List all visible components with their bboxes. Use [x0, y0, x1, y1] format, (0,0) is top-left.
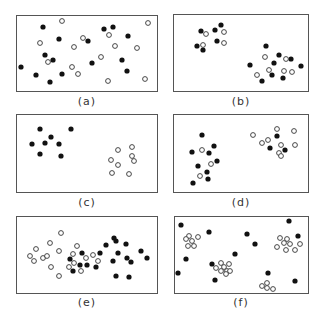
filled-point: [247, 62, 252, 67]
filled-point: [18, 64, 23, 69]
open-point: [45, 254, 50, 259]
filled-point: [205, 176, 210, 181]
open-point: [99, 55, 104, 60]
filled-point: [292, 278, 297, 283]
filled-point: [42, 140, 47, 145]
filled-point: [211, 143, 216, 148]
open-point: [84, 256, 89, 261]
panel-e-points: [28, 231, 150, 280]
open-point: [46, 60, 51, 65]
open-point: [91, 253, 96, 258]
filled-point: [56, 36, 61, 41]
filled-point: [183, 256, 188, 261]
filled-point: [189, 149, 194, 154]
open-point: [130, 145, 135, 150]
filled-point: [67, 256, 72, 261]
filled-point: [89, 60, 94, 65]
open-point: [267, 68, 272, 73]
open-point: [278, 236, 283, 241]
filled-point: [280, 75, 285, 80]
open-point: [57, 274, 62, 279]
open-point: [200, 148, 205, 153]
open-point: [275, 127, 280, 132]
filled-point: [212, 27, 217, 32]
filled-point: [178, 222, 183, 227]
open-point: [284, 248, 289, 253]
open-point: [288, 242, 293, 247]
filled-point: [267, 145, 272, 150]
filled-point: [138, 248, 143, 253]
filled-point: [259, 78, 264, 83]
filled-point: [113, 238, 118, 243]
open-point: [282, 241, 287, 246]
filled-point: [110, 258, 115, 263]
filled-point: [115, 250, 120, 255]
open-point: [75, 244, 80, 249]
open-point: [271, 287, 276, 292]
open-point: [266, 138, 271, 143]
filled-point: [59, 71, 64, 76]
filled-point: [56, 141, 61, 146]
open-point: [293, 248, 298, 253]
open-point: [48, 241, 53, 246]
open-point: [81, 36, 86, 41]
filled-point: [37, 126, 42, 131]
open-point: [196, 235, 201, 240]
open-point: [72, 261, 77, 266]
panel-f-points: [175, 218, 302, 291]
open-point: [32, 259, 37, 264]
filled-point: [212, 277, 217, 282]
filled-point: [286, 218, 291, 223]
filled-point: [58, 153, 63, 158]
open-point: [116, 148, 121, 153]
filled-point: [144, 255, 149, 260]
filled-point: [271, 60, 276, 65]
open-point: [132, 159, 137, 164]
panel-d-points: [189, 127, 297, 186]
filled-point: [47, 79, 52, 84]
open-point: [219, 269, 224, 274]
filled-point: [124, 68, 129, 73]
open-point: [222, 41, 227, 46]
filled-point: [265, 270, 270, 275]
filled-point: [282, 147, 287, 152]
open-point: [279, 143, 284, 148]
open-point: [96, 259, 101, 264]
filled-point: [37, 151, 42, 156]
open-point: [224, 272, 229, 277]
filled-point: [125, 33, 130, 38]
open-point: [110, 171, 115, 176]
filled-point: [93, 264, 98, 269]
filled-point: [214, 38, 219, 43]
open-point: [67, 265, 72, 270]
open-point: [263, 55, 268, 60]
filled-point: [204, 169, 209, 174]
filled-point: [214, 158, 219, 163]
panel-a-points: [18, 19, 150, 85]
filled-point: [128, 259, 133, 264]
filled-point: [209, 261, 214, 266]
filled-point: [252, 241, 257, 246]
filled-point: [274, 133, 279, 138]
open-point: [190, 239, 195, 244]
open-point: [255, 73, 260, 78]
open-point: [251, 133, 256, 138]
open-point: [282, 69, 287, 74]
open-point: [186, 244, 191, 249]
filled-point: [263, 43, 268, 48]
open-point: [201, 43, 206, 48]
panel-b-points: [194, 22, 303, 83]
open-point: [135, 46, 140, 51]
filled-point: [232, 251, 237, 256]
open-point: [59, 231, 64, 236]
filled-point: [119, 57, 124, 62]
filled-point: [199, 132, 204, 137]
filled-point: [77, 262, 82, 267]
open-point: [146, 21, 151, 26]
open-point: [265, 286, 270, 291]
filled-point: [288, 56, 293, 61]
open-point: [72, 45, 77, 50]
filled-point: [244, 231, 249, 236]
filled-point: [101, 26, 106, 31]
open-point: [70, 65, 75, 70]
